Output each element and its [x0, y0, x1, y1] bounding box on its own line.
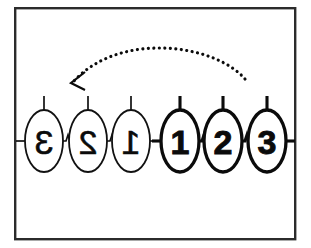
left-node-1-label: 1: [122, 123, 141, 161]
right-node-1-label: 1: [171, 123, 190, 161]
left-node-3-label: 3: [35, 123, 54, 161]
right-node-2-label: 2: [214, 123, 233, 161]
diagram-canvas: 3 2 1 1: [0, 0, 311, 248]
right-node-3-label: 3: [258, 123, 277, 161]
left-node-2-label: 2: [79, 123, 98, 161]
diagram-root: 3 2 1 1: [0, 0, 311, 248]
